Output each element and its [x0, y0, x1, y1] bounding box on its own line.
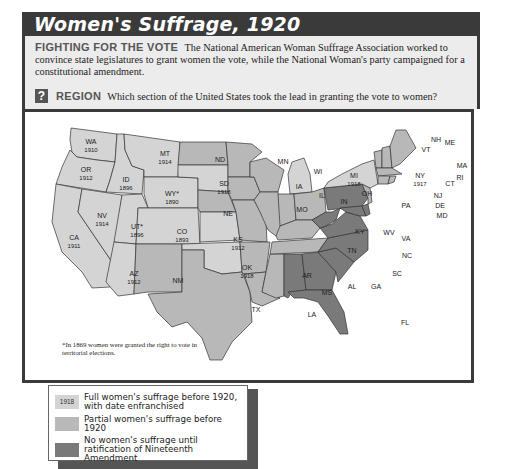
label-AL: AL [348, 283, 357, 290]
year-MI: 1918 [347, 181, 361, 187]
year-NV: 1914 [95, 221, 109, 227]
year-CO: 1893 [175, 237, 189, 243]
label-MO: MO [296, 206, 308, 213]
label-ND: ND [215, 156, 225, 163]
legend-swatch-none [55, 443, 79, 457]
label-IN: IN [341, 198, 348, 205]
label-LA: LA [308, 311, 317, 318]
label-MT: MT [160, 150, 171, 157]
state-FL [288, 290, 348, 334]
label-MI: MI [350, 172, 358, 179]
label-WV: WV [383, 229, 395, 236]
label-IA: IA [296, 183, 303, 190]
question-text: Which section of the United States took … [107, 91, 437, 102]
year-OR: 1912 [79, 175, 93, 181]
footnote: *In 1869 women were granted the right to… [62, 341, 212, 357]
title-bar: Women's Suffrage, 1920 [22, 12, 480, 36]
label-WA: WA [85, 138, 96, 145]
label-AZ: AZ [130, 270, 140, 277]
label-RI: RI [457, 174, 464, 181]
state-ME [390, 130, 416, 168]
label-SC: SC [392, 270, 402, 277]
label-CO: CO [177, 228, 188, 235]
legend-label-partial: Partial women's suffrage before 1920 [84, 415, 244, 433]
label-AR: AR [302, 272, 312, 279]
state-CO [136, 208, 200, 244]
year-CA: 1911 [68, 243, 82, 249]
label-WY: WY* [165, 190, 179, 197]
year-ID: 1896 [119, 185, 133, 191]
label-SD: SD [219, 180, 229, 187]
label-IL: IL [319, 192, 325, 199]
label-OH: OH [362, 190, 373, 197]
label-MN: MN [278, 158, 289, 165]
label-CA: CA [69, 234, 79, 241]
label-GA: GA [371, 283, 381, 290]
label-VT: VT [422, 146, 432, 153]
year-WA: 1910 [84, 147, 98, 153]
label-VA: VA [402, 235, 411, 242]
question-lead: REGION [56, 90, 101, 102]
year-AZ: 1912 [127, 279, 141, 285]
label-NJ: NJ [434, 192, 443, 199]
year-UT: 1896 [130, 232, 144, 238]
label-CT: CT [445, 180, 455, 187]
legend-swatch-partial [55, 417, 79, 431]
label-TN: TN [347, 247, 356, 254]
caption-box: FIGHTING FOR THE VOTE The National Ameri… [22, 36, 480, 109]
state-NM [134, 244, 182, 294]
label-OK: OK [242, 264, 252, 271]
label-MA: MA [457, 162, 468, 169]
legend-item-full: 1918 Full women's suffrage before 1920, … [55, 393, 242, 411]
legend-item-partial: Partial women's suffrage before 1920 [55, 415, 244, 433]
label-DE: DE [435, 202, 445, 209]
label-TX: TX [252, 306, 261, 313]
label-NV: NV [97, 212, 107, 219]
legend-label-none: No women's suffrage until ratification o… [84, 436, 244, 463]
caption-lead: FIGHTING FOR THE VOTE [35, 41, 178, 53]
label-OR: OR [81, 166, 92, 173]
year-OK: 1918 [240, 273, 254, 279]
map-title: Women's Suffrage, 1920 [34, 13, 300, 35]
legend: 1918 Full women's suffrage before 1920, … [48, 385, 248, 461]
year-NY: 1917 [413, 181, 427, 187]
label-ID: ID [123, 176, 130, 183]
question: ? REGION Which section of the United Sta… [35, 89, 467, 103]
label-NC: NC [402, 252, 412, 259]
label-WI: WI [314, 168, 323, 175]
year-WY: 1890 [165, 199, 179, 205]
label-ME: ME [445, 139, 456, 146]
legend-swatch-full: 1918 [55, 395, 79, 409]
year-SD: 1918 [217, 189, 231, 195]
label-KS: KS [233, 236, 243, 243]
question-mark-icon: ? [35, 89, 48, 103]
year-MT: 1914 [158, 159, 172, 165]
state-MA [376, 168, 402, 176]
label-NH: NH [431, 136, 441, 143]
label-UT: UT* [131, 223, 143, 230]
label-NM: NM [173, 277, 184, 284]
label-MS: MS [322, 289, 333, 296]
label-KY: KY [355, 228, 365, 235]
year-KS: 1912 [231, 245, 245, 251]
label-PA: PA [402, 202, 411, 209]
label-NY: NY [415, 172, 425, 179]
legend-item-none: No women's suffrage until ratification o… [55, 436, 244, 463]
caption: FIGHTING FOR THE VOTE The National Ameri… [35, 41, 467, 79]
label-NE: NE [223, 210, 233, 217]
label-MD: MD [437, 212, 448, 219]
label-FL: FL [401, 319, 409, 326]
legend-label-full: Full women's suffrage before 1920, with … [84, 393, 242, 411]
